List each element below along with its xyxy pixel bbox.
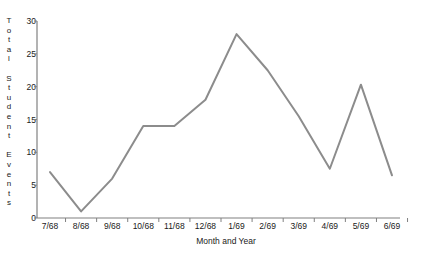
data-series-line	[50, 34, 392, 211]
data-polyline	[50, 34, 392, 211]
plot-area	[0, 0, 424, 254]
axis-tick-marks	[34, 21, 408, 222]
line-chart: Total Student Events 051015202530 7/688/…	[0, 0, 424, 254]
axis-lines	[37, 21, 400, 218]
